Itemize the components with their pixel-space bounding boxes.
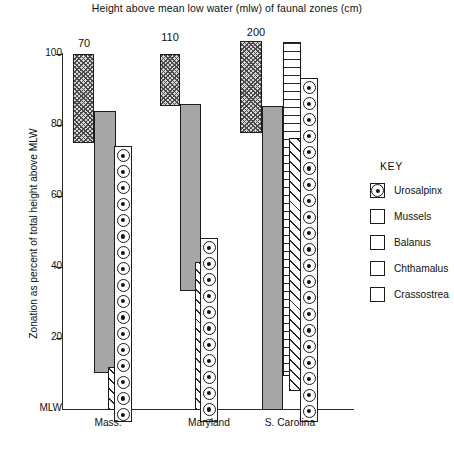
- bar-mass-balanus: [94, 111, 116, 373]
- y-tick-label: MLW: [14, 402, 62, 413]
- group-value-label-s-carolina: 200: [228, 26, 284, 38]
- y-axis-line: [62, 53, 63, 410]
- bar-maryland-chthamalus: [160, 54, 180, 106]
- legend-label: Balanus: [394, 237, 431, 248]
- legend-item-mussels: Mussels: [370, 208, 431, 224]
- legend-label: Urosalpinx: [394, 185, 442, 196]
- group-value-label-mass: 70: [62, 37, 106, 49]
- urosalpinx-swatch-icon: [370, 183, 385, 198]
- crassostrea-swatch-icon: [370, 287, 385, 302]
- bar-mass-urosalpinx: [114, 146, 132, 422]
- mussels-swatch-icon: [370, 209, 385, 224]
- legend-item-urosalpinx: Urosalpinx: [370, 182, 442, 198]
- urosalpinx-pattern: [201, 239, 217, 421]
- group-value-label-maryland: 110: [146, 31, 194, 43]
- balanus-swatch-icon: [370, 235, 385, 250]
- legend-title: KEY: [380, 160, 403, 172]
- figure-root: Height above mean low water (mlw) of fau…: [0, 0, 454, 451]
- plot-area: 100 80 60 40 20 MLW Zonation as percent …: [0, 0, 454, 451]
- legend-label: Mussels: [394, 211, 431, 222]
- legend-label: Chthamalus: [394, 263, 448, 274]
- bar-maryland-urosalpinx: [200, 238, 218, 422]
- x-axis-label-s-carolina: S. Carolina: [235, 417, 345, 428]
- x-axis-label-mass: Mass.: [58, 417, 158, 428]
- y-axis-title: Zonation as percent of total height abov…: [28, 84, 39, 384]
- legend-item-crassostrea: Crassostrea: [370, 286, 449, 302]
- legend-label: Crassostrea: [394, 289, 449, 300]
- legend-item-balanus: Balanus: [370, 234, 431, 250]
- bar-s-carolina-urosalpinx: [300, 78, 318, 422]
- bar-s-carolina-chthamalus: [240, 41, 262, 133]
- legend-item-chthamalus: Chthamalus: [370, 260, 448, 276]
- bar-mass-chthamalus: [73, 54, 94, 143]
- y-tick-label: 100: [14, 47, 62, 58]
- bar-s-carolina-balanus: [262, 106, 283, 410]
- urosalpinx-pattern: [301, 79, 317, 421]
- chthamalus-swatch-icon: [370, 261, 385, 276]
- urosalpinx-pattern: [115, 147, 131, 421]
